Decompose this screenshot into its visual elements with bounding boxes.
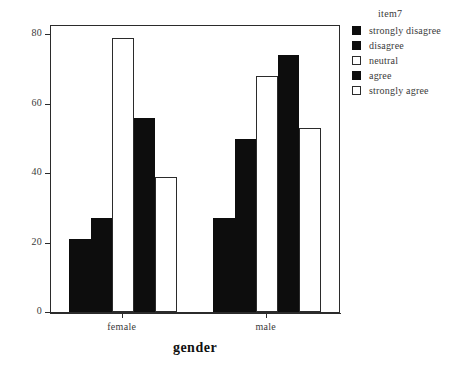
bar-female-strongly-disagree [69,239,91,312]
legend-item-neutral[interactable]: neutral [352,53,467,68]
bar-female-neutral [112,38,134,312]
x-axis-title: gender [0,340,390,356]
y-tick-label: 20 [31,236,42,247]
y-tick-label: 80 [31,27,42,38]
x-tick-mark-female [122,313,123,318]
legend-item-strongly-disagree[interactable]: strongly disagree [352,23,467,38]
legend-swatch-icon [352,41,361,50]
bar-male-disagree [235,139,257,312]
x-tick-label-female: female [107,321,136,332]
legend-swatch-icon [352,71,361,80]
bar-male-neutral [256,76,278,312]
y-tick-label: 0 [37,305,42,316]
legend-label: agree [369,70,392,81]
bar-female-disagree [91,218,113,312]
legend: item7 strongly disagreedisagreeneutralag… [352,8,467,98]
bar-male-agree [278,55,300,312]
legend-label: strongly disagree [369,25,441,36]
legend-label: strongly agree [369,85,429,96]
plot-area [51,26,339,312]
legend-label: disagree [369,40,404,51]
bar-male-strongly-disagree [213,218,235,312]
legend-swatch-icon [352,56,361,65]
legend-items: strongly disagreedisagreeneutralagreestr… [352,23,467,98]
legend-swatch-icon [352,26,361,35]
legend-item-disagree[interactable]: disagree [352,38,467,53]
bar-chart-figure: Count 020406080 femalemale gender item7 … [0,0,467,367]
y-tick-label: 60 [31,97,42,108]
y-tick-label: 40 [31,166,42,177]
legend-swatch-icon [352,86,361,95]
legend-label: neutral [369,55,398,66]
x-tick-mark-male [266,313,267,318]
bar-male-strongly-agree [299,128,321,312]
bar-female-agree [134,118,156,312]
x-axis [50,313,341,314]
legend-item-agree[interactable]: agree [352,68,467,83]
bar-female-strongly-agree [155,177,177,312]
x-tick-label-male: male [255,321,276,332]
plot-frame [50,25,340,313]
legend-title: item7 [378,8,467,19]
legend-item-strongly-agree[interactable]: strongly agree [352,83,467,98]
